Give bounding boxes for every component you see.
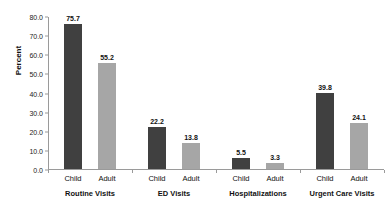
bar-child-hospitalizations: 5.5 (232, 158, 250, 169)
x-axis-group-label: Routine Visits (65, 189, 115, 198)
bar-chart: Percent 0.010.020.030.040.050.060.070.08… (0, 0, 388, 210)
bar-value-label: 3.3 (270, 154, 280, 161)
bar-adult-ed-visits: 13.8 (182, 143, 200, 169)
bar-child-ed-visits: 22.2 (148, 127, 166, 169)
bar-adult-urgent-care-visits: 24.1 (350, 123, 368, 169)
y-axis-line (48, 17, 49, 170)
y-axis-tick-label: 50.0 (3, 71, 48, 78)
y-axis-tick-label: 0.0 (3, 167, 48, 174)
x-axis-series-label: Child (232, 174, 249, 183)
y-axis-tick-mark (45, 112, 48, 113)
x-axis-series-label: Child (316, 174, 333, 183)
x-axis-series-label: Adult (98, 174, 115, 183)
x-axis-group-label: Hospitalizations (229, 189, 287, 198)
x-axis-series-label: Adult (182, 174, 199, 183)
bar-value-label: 39.8 (318, 84, 332, 91)
y-axis-tick-mark (45, 55, 48, 56)
y-axis-tick-label: 80.0 (3, 14, 48, 21)
bar-value-label: 5.5 (236, 149, 246, 156)
y-axis-tick-label: 40.0 (3, 90, 48, 97)
x-axis-separator-tick (48, 170, 49, 173)
bar-adult-hospitalizations: 3.3 (266, 163, 284, 169)
y-axis-tick-label: 60.0 (3, 52, 48, 59)
y-axis-tick-label: 30.0 (3, 109, 48, 116)
bar-value-label: 55.2 (100, 54, 114, 61)
bar-adult-routine-visits: 55.2 (98, 63, 116, 169)
x-axis-separator-tick (300, 170, 301, 173)
y-axis-tick-label: 70.0 (3, 33, 48, 40)
y-axis-tick-mark (45, 131, 48, 132)
bar-value-label: 22.2 (150, 118, 164, 125)
y-axis-tick-mark (45, 150, 48, 151)
x-axis-group-label: ED Visits (158, 189, 190, 198)
y-axis-tick-mark (45, 74, 48, 75)
y-axis-tick-mark (45, 17, 48, 18)
plot-area: 0.010.020.030.040.050.060.070.080.075.75… (48, 17, 384, 170)
x-axis-separator-tick (132, 170, 133, 173)
bar-child-routine-visits: 75.7 (64, 24, 82, 169)
bar-value-label: 13.8 (184, 134, 198, 141)
x-axis-series-label: Child (148, 174, 165, 183)
x-axis-series-label: Child (64, 174, 81, 183)
x-axis-separator-tick (216, 170, 217, 173)
x-axis-separator-tick (384, 170, 385, 173)
y-axis-tick-label: 10.0 (3, 147, 48, 154)
bar-value-label: 24.1 (352, 114, 366, 121)
y-axis-tick-label: 20.0 (3, 128, 48, 135)
x-axis-series-label: Adult (266, 174, 283, 183)
x-axis-group-label: Urgent Care Visits (310, 189, 375, 198)
bar-child-urgent-care-visits: 39.8 (316, 93, 334, 169)
bar-value-label: 75.7 (66, 15, 80, 22)
y-axis-tick-mark (45, 36, 48, 37)
x-axis-series-label: Adult (350, 174, 367, 183)
y-axis-tick-mark (45, 93, 48, 94)
